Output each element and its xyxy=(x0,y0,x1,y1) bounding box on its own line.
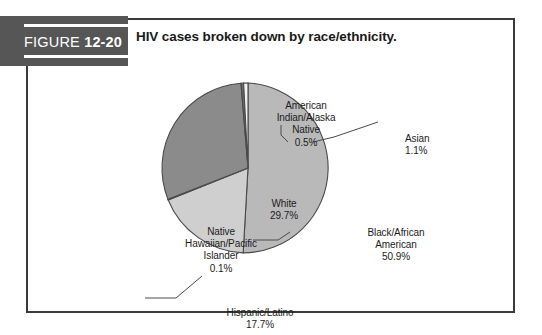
figure-number-label: FIGURE 12-20 xyxy=(24,32,128,52)
figure-number: 12-20 xyxy=(84,34,122,50)
leader-line-hispanic xyxy=(145,276,202,298)
pie-label-asian: Asian 1.1% xyxy=(405,133,471,157)
tab-rule-bottom xyxy=(24,55,128,58)
figure-word: FIGURE xyxy=(24,34,80,50)
pie-label-american-indian-alaska-native: American Indian/Alaska Native 0.5% xyxy=(254,100,358,149)
pie-label-hispanic-latino: Hispanic/Latino 17.7% xyxy=(201,307,319,331)
pie-label-black-african-american: Black/African American 50.9% xyxy=(342,227,450,264)
figure-root: American Indian/Alaska Native 0.5% Asian… xyxy=(0,0,542,335)
figure-number-tab: FIGURE 12-20 xyxy=(0,16,128,66)
pie-label-native-hawaiian-pacific-islander: Native Hawaiian/Pacific Islander 0.1% xyxy=(166,226,276,275)
pie-label-white: White 29.7% xyxy=(251,198,317,222)
figure-caption: HIV cases broken down by race/ethnicity. xyxy=(136,29,397,44)
tab-rule-top xyxy=(24,24,128,27)
